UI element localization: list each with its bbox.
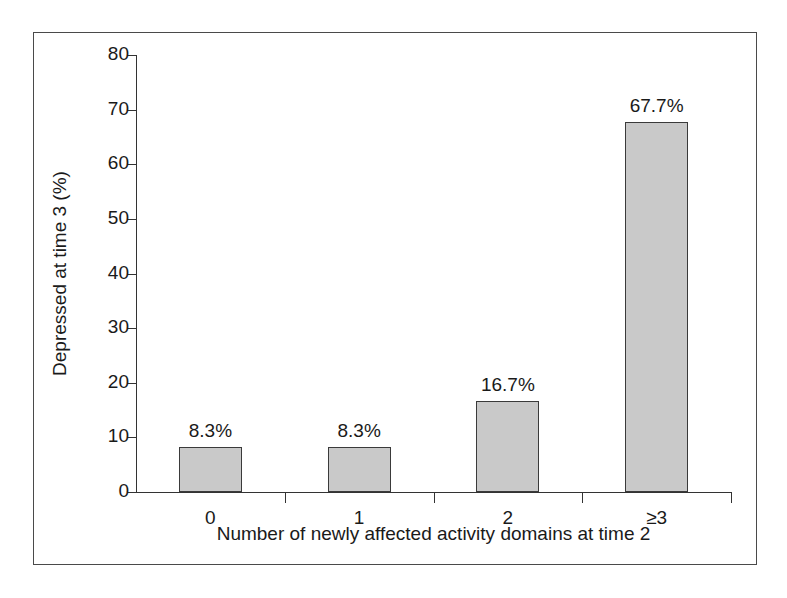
bar-value-label-1: 8.3% [285, 420, 434, 441]
y-axis-title: Depressed at time 3 (%) [48, 55, 72, 492]
x-tick-mark [285, 492, 286, 503]
bar-1 [328, 447, 391, 492]
y-tick-label: 40 [108, 263, 129, 283]
y-tick-label: 0 [118, 481, 129, 501]
y-tick-label: 20 [108, 372, 129, 392]
bar-value-label-0: 8.3% [136, 420, 285, 441]
x-tick-label-3: ≥3 [582, 507, 731, 529]
bar-0 [179, 447, 242, 492]
bar-value-label-2: 16.7% [434, 374, 583, 395]
x-tick-mark [582, 492, 583, 503]
figure-canvas: Depressed at time 3 (%) Number of newly … [0, 0, 787, 598]
bar-value-label-3: 67.7% [582, 95, 731, 116]
plot-area: 01020304050607080 012≥3 8.3%8.3%16.7%67.… [136, 55, 731, 492]
x-tick-mark [434, 492, 435, 503]
bar-3 [625, 122, 688, 492]
x-tick-label-0: 0 [136, 507, 285, 529]
x-tick-label-1: 1 [285, 507, 434, 529]
y-tick-label: 80 [108, 44, 129, 64]
y-tick-label: 10 [108, 426, 129, 446]
y-tick-label: 30 [108, 317, 129, 337]
bar-2 [476, 401, 539, 492]
y-tick-label: 50 [108, 208, 129, 228]
x-tick-mark [731, 492, 732, 503]
y-tick-label: 60 [108, 153, 129, 173]
y-tick-label: 70 [108, 99, 129, 119]
x-tick-label-2: 2 [434, 507, 583, 529]
